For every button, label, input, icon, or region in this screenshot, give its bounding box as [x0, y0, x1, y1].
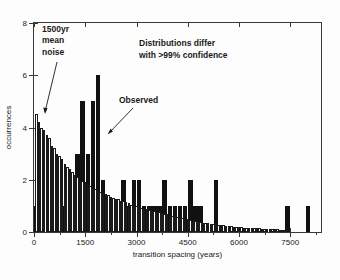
x-axis-tick-label: 7500: [281, 238, 299, 247]
x-axis-minor-tick: [162, 232, 163, 235]
x-axis-minor-tick: [111, 232, 112, 235]
x-axis-tick: [188, 232, 189, 237]
y-axis-tick-label: 2: [23, 175, 27, 184]
x-axis-tick-top: [290, 23, 291, 27]
x-axis-tick-label: 4500: [179, 238, 197, 247]
y-axis-label: occurrences: [2, 22, 16, 233]
y-axis-tick-label: 8: [23, 19, 27, 28]
x-axis-tick-top: [137, 23, 138, 27]
x-axis-tick-label: 3000: [128, 238, 146, 247]
y-axis-tick-label: 0: [23, 228, 27, 237]
bar-observed: [306, 206, 311, 232]
x-axis-tick: [290, 232, 291, 237]
x-axis-tick-label: 0: [32, 238, 36, 247]
annotation-observed: Observed: [119, 95, 158, 106]
x-axis-tick: [239, 232, 240, 237]
x-axis-tick-label: 1500: [76, 238, 94, 247]
y-axis-tick-inner: [34, 75, 38, 76]
annotation-noise: 1500yr mean noise: [42, 24, 69, 58]
x-axis-minor-tick: [213, 232, 214, 235]
y-axis-tick-label: 6: [23, 71, 27, 80]
x-axis-label: transition spacing (years): [33, 250, 322, 259]
x-axis-tick: [34, 232, 35, 237]
annotation-confidence: Distributions differ with >99% confidenc…: [139, 37, 228, 62]
x-axis-tick-top: [239, 23, 240, 27]
x-axis-tick-inner: [290, 228, 291, 232]
y-axis-label-text: occurrences: [5, 106, 14, 150]
x-axis-tick-top: [85, 23, 86, 27]
bar-observed: [285, 206, 290, 232]
bar-noise: [286, 230, 288, 232]
x-axis-tick-top: [188, 23, 189, 27]
y-axis-tick-label: 4: [23, 123, 27, 132]
x-axis-minor-tick: [316, 232, 317, 235]
x-axis-tick-label: 6000: [230, 238, 248, 247]
x-axis-tick: [137, 232, 138, 237]
x-axis-tick: [85, 232, 86, 237]
x-axis-minor-tick: [265, 232, 266, 235]
x-axis-minor-tick: [60, 232, 61, 235]
histogram-figure: occurrences 02468015003000450060007500 t…: [0, 0, 340, 280]
x-axis-label-text: transition spacing (years): [133, 250, 222, 259]
x-axis-tick-top: [34, 23, 35, 27]
